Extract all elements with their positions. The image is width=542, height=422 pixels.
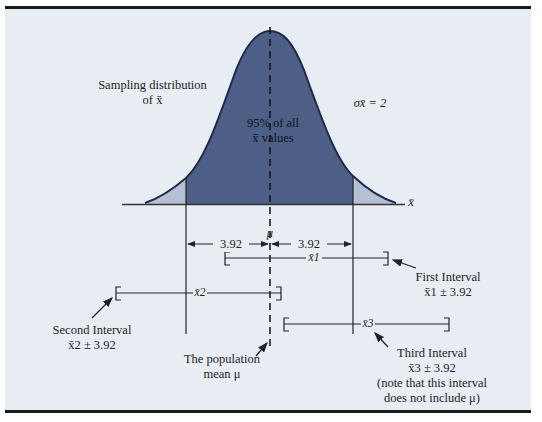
confidence-interval-figure: Sampling distribution of x̄ 95% of all x… — [0, 0, 542, 422]
xbar2-label: x̄2 — [192, 285, 208, 300]
xbar3-label: x̄3 — [359, 316, 377, 331]
population-mean-label: The population mean μ — [180, 352, 264, 382]
axis-label: x̄ — [404, 195, 418, 210]
first-interval-label: First Interval x̄1 ± 3.92 — [398, 270, 498, 300]
mu-label: μ — [263, 226, 277, 241]
xbar1-label: x̄1 — [305, 250, 323, 265]
third-interval-pointer — [375, 333, 388, 347]
sampling-distribution-label: Sampling distribution of x̄ — [90, 78, 215, 108]
sigma-label: σx̄ = 2 — [340, 96, 400, 111]
third-interval-label: Third Interval x̄3 ± 3.92 (note that thi… — [372, 346, 492, 406]
central-area-label: 95% of all x̄ values — [228, 116, 318, 146]
left-width-label: 3.92 — [213, 237, 249, 252]
first-interval-pointer — [393, 260, 416, 268]
second-interval-pointer — [92, 298, 112, 318]
second-interval-label: Second Interval x̄2 ± 3.92 — [42, 323, 142, 353]
